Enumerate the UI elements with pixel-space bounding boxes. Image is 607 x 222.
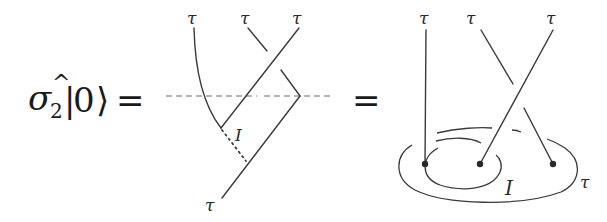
tree-crossing-under-lower xyxy=(281,70,300,96)
tree-top-label-1: τ xyxy=(187,8,197,28)
tree-top-label-2: τ xyxy=(240,8,250,28)
equals-sign-2: = xyxy=(352,80,381,120)
tree-crossing-under-upper xyxy=(248,28,267,51)
anyon-top-label-3: τ xyxy=(546,8,556,28)
inner-loop-upper xyxy=(436,138,481,143)
outer-loop-label: τ xyxy=(580,172,590,192)
equals-sign-1: = xyxy=(116,80,145,120)
inner-loop-label: I xyxy=(504,176,514,200)
tree-top-label-3: τ xyxy=(292,8,302,28)
tree-intermediate-label: I xyxy=(234,125,242,145)
anyon-top-label-1: τ xyxy=(419,8,429,28)
inner-loop-lower xyxy=(425,148,501,189)
anyon-dot-2 xyxy=(477,161,483,167)
sigma-symbol: σ xyxy=(28,78,52,118)
anyon-dot-3 xyxy=(550,161,556,167)
sigma-subscript: 2 xyxy=(50,99,63,123)
ket-value: 0 xyxy=(73,80,95,120)
anyon-top-label-2: τ xyxy=(466,8,476,28)
lhs-expression: ^ σ 2 | 0 ⟩ = xyxy=(28,70,145,123)
ket-close: ⟩ xyxy=(96,80,109,120)
anyon-strand-under-lower xyxy=(524,108,553,164)
equation-figure: ^ σ 2 | 0 ⟩ = τ τ τ I τ = τ τ τ xyxy=(0,0,607,222)
anyon-diagram: τ τ τ I τ xyxy=(399,8,590,202)
tree-bottom-label: τ xyxy=(205,195,215,215)
anyon-dot-1 xyxy=(422,161,428,167)
outer-loop-upper-left xyxy=(437,128,492,133)
tree-left-strand xyxy=(194,28,221,128)
anyon-strand-1 xyxy=(425,30,426,164)
anyon-strand-under-upper xyxy=(481,30,513,84)
fusion-tree-diagram: τ τ τ I τ xyxy=(166,8,330,215)
tree-intermediate-dotted xyxy=(222,130,246,161)
outer-loop-upper-mid xyxy=(512,130,521,132)
